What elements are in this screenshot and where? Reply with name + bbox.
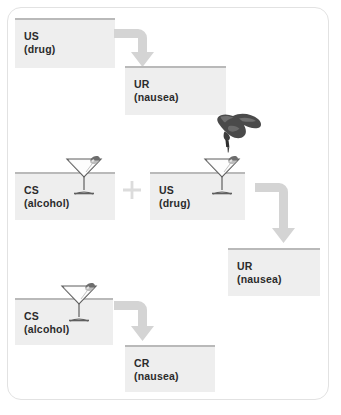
- hand-pouring-dropper-icon: [199, 113, 263, 165]
- box-cr-bottom: CR (nausea): [125, 345, 215, 392]
- arrow-us-to-ur-top: [114, 28, 158, 68]
- box-top-rule: [125, 345, 215, 347]
- box-us-top-text: US (drug): [24, 30, 56, 56]
- martini-glass-icon: [57, 277, 101, 325]
- box-top-rule: [125, 66, 226, 68]
- box-top-rule: [228, 248, 320, 250]
- box-top-rule: [15, 18, 115, 20]
- martini-glass-icon: [62, 150, 106, 198]
- box-ur-bottom-label: UR: [237, 260, 282, 273]
- conditioning-diagram: US (drug) UR (nausea) CS (alcohol): [0, 0, 341, 415]
- box-ur-top-label: UR: [134, 78, 179, 91]
- box-us-top: US (drug): [15, 18, 115, 68]
- box-ur-bottom-text: UR (nausea): [237, 260, 282, 286]
- box-cr-bottom-label: CR: [134, 357, 179, 370]
- arrow-us-to-ur-bottom: [255, 182, 299, 244]
- arrow-cs-to-cr: [114, 300, 158, 342]
- box-us-top-label: US: [24, 30, 56, 43]
- box-us-mid-label: US: [159, 184, 191, 197]
- box-ur-bottom-sublabel: (nausea): [237, 273, 282, 286]
- box-ur-top-text: UR (nausea): [134, 78, 179, 104]
- box-us-top-sublabel: (drug): [24, 43, 56, 56]
- box-ur-top-sublabel: (nausea): [134, 91, 179, 104]
- box-us-mid-sublabel: (drug): [159, 197, 191, 210]
- box-ur-top: UR (nausea): [125, 66, 226, 115]
- box-ur-bottom: UR (nausea): [228, 248, 320, 296]
- box-cr-bottom-text: CR (nausea): [134, 357, 179, 383]
- plus-operator: [122, 180, 142, 204]
- box-cr-bottom-sublabel: (nausea): [134, 370, 179, 383]
- box-cs-mid-sublabel: (alcohol): [24, 197, 70, 210]
- box-us-mid-text: US (drug): [159, 184, 191, 210]
